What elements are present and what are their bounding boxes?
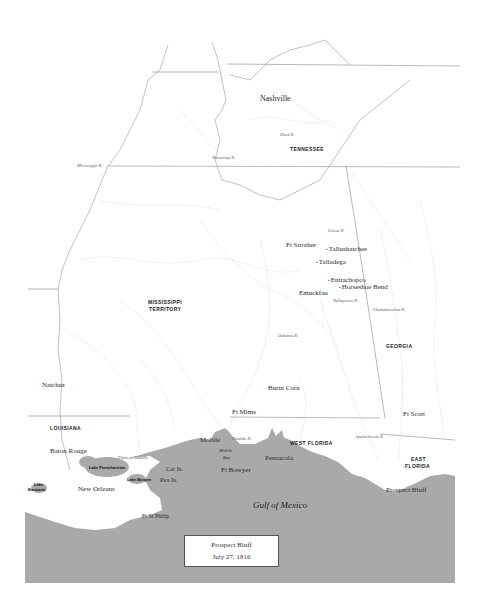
region-label-territory: Territory [149, 307, 181, 312]
water-lake-borgne: Lake Borgne [127, 478, 151, 482]
place-talladega: Talladega [316, 259, 346, 266]
place-burnt-corn: Burnt Corn [268, 385, 300, 392]
island-cat: Cat Is. [166, 466, 183, 473]
water-lake-pontchartrain: Lake Pontchartrain [89, 466, 125, 470]
place-ft-mims: Ft Mims [232, 409, 256, 416]
region-label-east: East [411, 457, 426, 462]
caption-date: July 27, 1816 [185, 551, 278, 563]
place-new-orleans: New Orleans [78, 486, 115, 493]
place-horseshoe-bend: Horseshoe Bend [339, 284, 388, 291]
major-rivers [58, 40, 410, 470]
river-coosa: Coosa R. [328, 229, 345, 234]
river-alabama: Alabama R. [277, 334, 298, 339]
place-prospect-bluff: Prospect Bluff [386, 487, 427, 494]
minor-rivers [60, 90, 445, 460]
region-label-georgia: Georgia [386, 344, 412, 349]
place-ft-scott: Ft Scott [403, 411, 425, 418]
place-ft-st-philip: Ft St Philip [142, 513, 169, 519]
river-perdido: Perdido R. [232, 437, 251, 442]
river-mississippi: Mississippi R. [77, 164, 102, 169]
place-mobile: Mobile [200, 437, 220, 444]
river-chattahoochee: Chattahoochee R. [373, 308, 405, 313]
region-label-florida: Florida [405, 464, 430, 469]
caption-title: Prospect Bluff [185, 539, 278, 551]
place-natchez: Natchez [42, 382, 65, 389]
place-tallushatchee: Tallushatchee [326, 246, 367, 253]
region-label-louisiana: Louisiana [50, 426, 81, 431]
island-pea: Pea Is. [160, 477, 177, 484]
place-ft-strother: Ft Strother [286, 242, 316, 249]
water-mobile-bay-2: Bay [223, 456, 230, 461]
map-canvas [0, 0, 483, 613]
region-label-mississippi: Mississippi [148, 300, 182, 305]
water-lake-barataria-2: Barataria [28, 488, 45, 492]
river-tennessee: Tennessee R. [212, 156, 235, 161]
river-tallapoosa: Tallapoosa R. [333, 299, 358, 304]
region-label-west-florida: West Florida [290, 441, 333, 446]
water-gulf-of-mexico: Gulf of Mexico [253, 501, 307, 510]
state-borders [28, 64, 460, 440]
place-emuckfau: Emuckfau [299, 290, 328, 297]
water-plain-of-gentilly: Plain of Gentilly [118, 456, 148, 461]
water-mobile-bay-1: Mobile [219, 449, 232, 454]
region-label-tennessee: Tennessee [290, 147, 324, 152]
map-caption-box: Prospect Bluff July 27, 1816 [184, 535, 279, 567]
river-duck: Duck R. [280, 133, 295, 138]
place-pensacola: Pensacola [265, 455, 293, 462]
place-ft-bowyer: Ft Bowyer [221, 467, 251, 474]
river-apalachicola: Apalachicola R. [355, 435, 384, 440]
place-nashville: Nashville [260, 95, 291, 103]
place-baton-rouge: Baton Rouge [50, 448, 87, 455]
